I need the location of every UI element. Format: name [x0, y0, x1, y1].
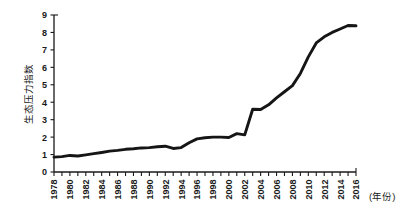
x-axis-tick-label: 1990	[145, 180, 155, 200]
x-axis-tick-label: 1994	[177, 180, 187, 200]
x-axis-tick-label: 1980	[65, 180, 75, 200]
y-axis-tick-label: 8	[42, 28, 47, 38]
x-axis-tick-label: 2016	[351, 180, 361, 200]
y-axis-tick-label: 9	[42, 10, 47, 20]
x-axis: 1978198019821984198619881990199219941996…	[49, 168, 361, 200]
x-axis-tick-label: 2012	[320, 180, 330, 200]
y-axis-tick-label: 4	[42, 98, 47, 108]
x-axis-tick-label: 1978	[49, 180, 59, 200]
x-axis-tick-label: 1992	[161, 180, 171, 200]
y-axis-tick-label: 3	[42, 115, 47, 125]
x-axis-tick-label: 1996	[192, 180, 202, 200]
x-axis-tick-label: 1986	[113, 180, 123, 200]
series-line	[54, 25, 356, 157]
x-axis-tick-label: 2004	[256, 180, 266, 200]
x-axis-tick-label: 1984	[97, 180, 107, 200]
x-axis-tick-label: 2014	[336, 180, 346, 200]
y-axis: 0123456789	[42, 10, 58, 177]
x-axis-tick-label: 2010	[304, 180, 314, 200]
x-axis-tick-label: 2002	[240, 180, 250, 200]
x-axis-tick-label: 1988	[129, 180, 139, 200]
x-axis-tick-label: 1998	[208, 180, 218, 200]
x-axis-tick-label: 2006	[272, 180, 282, 200]
y-axis-tick-label: 0	[42, 167, 47, 177]
x-axis-tick-label: 1982	[81, 180, 91, 200]
y-axis-tick-label: 6	[42, 63, 47, 73]
y-axis-title: 生态压力指数	[23, 64, 34, 124]
x-axis-unit-label: (年份)	[369, 191, 395, 202]
y-axis-tick-label: 1	[42, 150, 47, 160]
y-axis-tick-label: 7	[42, 45, 47, 55]
chart-canvas: 0123456789 19781980198219841986198819901…	[0, 0, 409, 213]
chart-figure: 0123456789 19781980198219841986198819901…	[0, 0, 409, 213]
y-axis-tick-label: 2	[42, 133, 47, 143]
y-axis-tick-label: 5	[42, 80, 47, 90]
x-axis-tick-label: 2008	[288, 180, 298, 200]
x-axis-tick-label: 2000	[224, 180, 234, 200]
data-series-group	[54, 25, 356, 157]
